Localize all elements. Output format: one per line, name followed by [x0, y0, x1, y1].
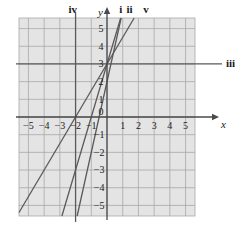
- svg-text:4: 4: [99, 41, 104, 52]
- svg-text:2: 2: [99, 76, 104, 87]
- series-label-iv: iv: [69, 4, 78, 15]
- svg-text:2: 2: [136, 120, 141, 131]
- svg-text:−2: −2: [70, 120, 81, 131]
- svg-text:−5: −5: [23, 120, 34, 131]
- svg-text:−3: −3: [94, 164, 105, 175]
- figure-root: −5−4−3−2−11234554321−1−2−3−4−50 iv i ii …: [0, 0, 252, 242]
- series-label-iii: iii: [226, 58, 235, 69]
- svg-text:3: 3: [152, 120, 157, 131]
- series-label-v: v: [143, 4, 149, 15]
- svg-text:3: 3: [99, 58, 104, 69]
- y-axis-label: y: [98, 7, 103, 18]
- coordinate-plane: −5−4−3−2−11234554321−1−2−3−4−50: [0, 0, 252, 242]
- svg-text:−2: −2: [94, 147, 105, 158]
- svg-text:−4: −4: [39, 120, 50, 131]
- svg-text:0: 0: [99, 106, 104, 117]
- svg-text:−3: −3: [55, 120, 66, 131]
- svg-text:5: 5: [183, 120, 188, 131]
- series-label-ii: ii: [127, 4, 133, 15]
- svg-text:−5: −5: [94, 200, 105, 211]
- x-axis-label: x: [221, 119, 226, 130]
- svg-text:4: 4: [167, 120, 172, 131]
- svg-text:5: 5: [99, 23, 104, 34]
- svg-text:−1: −1: [94, 129, 105, 140]
- svg-text:−4: −4: [94, 182, 105, 193]
- svg-text:1: 1: [120, 120, 125, 131]
- series-label-i: i: [119, 4, 122, 15]
- svg-text:1: 1: [99, 94, 104, 105]
